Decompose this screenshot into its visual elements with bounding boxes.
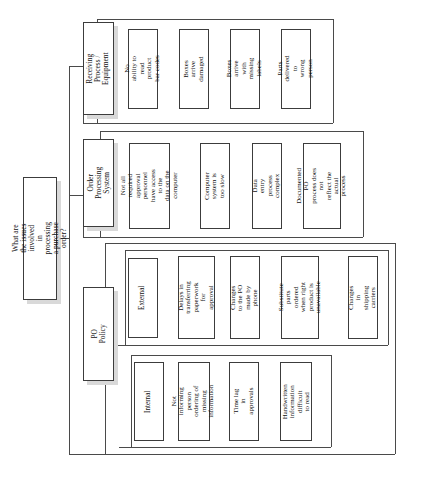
diagram-canvas: What are the issues involved in processi…	[0, 0, 423, 485]
connector-order-branch-top	[100, 131, 363, 132]
connector-external-bottom	[125, 345, 388, 346]
connector-external-v	[125, 250, 126, 345]
leaf-label: Computer system is too slow	[204, 172, 226, 200]
connector-receiving-branch-top	[97, 19, 333, 20]
leaf-computer-system-slow[interactable]: Computer system is too slow	[200, 143, 230, 229]
category-po-policy-label: PO Policy	[91, 320, 107, 349]
leaf-delays-transferring-paperwork[interactable]: Delays in transferring paperwork for app…	[178, 256, 215, 339]
connector-spine-to-receiving	[69, 66, 83, 67]
leaf-label: Data entry process complex	[252, 172, 282, 200]
leaf-label: Not informing person ordering of missing…	[172, 385, 216, 418]
connector-popolicy-outer-top	[105, 243, 395, 244]
leaf-boxes-arrive-damaged[interactable]: Boxes arrive damaged	[179, 29, 209, 109]
category-receiving-label: Receiving Process / Equipment	[87, 52, 111, 84]
connector-external-right	[388, 250, 389, 345]
leaf-no-ability-bar-codes[interactable]: No ability to read product bar codes	[128, 29, 158, 109]
connector-receiving-stub	[83, 123, 97, 124]
connector-popolicy-outer-right	[395, 243, 396, 454]
connector-receiving-branch-bottom	[97, 123, 333, 124]
subgroup-external[interactable]: External	[128, 258, 158, 338]
leaf-label: Changes to the PO made by phone	[230, 284, 260, 312]
connector-internal-bottom	[131, 447, 331, 448]
category-receiving-process-equipment[interactable]: Receiving Process / Equipment	[83, 22, 114, 115]
connector-internal-right	[331, 355, 332, 447]
connector-spine-to-popolicy	[69, 454, 105, 455]
connector-popolicy-outer-bottom	[105, 454, 395, 455]
connector-receiving-branch-right	[333, 19, 334, 123]
connector-internal-stub	[119, 447, 131, 448]
connector-internal-v	[131, 355, 132, 447]
leaf-label: Boxes arrive with missing labels	[226, 55, 263, 83]
leaf-label: Delays in transferring paperwork for app…	[178, 280, 215, 315]
leaf-changes-shipping-carriers[interactable]: Changes in shipping carriers	[348, 256, 378, 339]
connector-spine-to-order	[69, 195, 83, 196]
leaf-handwritten-difficult-to-read[interactable]: Handwritten information difficult to rea…	[280, 362, 312, 441]
leaf-not-informing-person-ordering[interactable]: Not informing person ordering of missing…	[178, 362, 210, 441]
leaf-label: Boxes arrive damaged	[183, 55, 205, 83]
leaf-label: Handwritten information difficult to rea…	[281, 384, 311, 419]
leaf-approval-personnel-access[interactable]: Not all required approval personnel have…	[129, 143, 170, 229]
leaf-parts-wrong-person[interactable]: Parts delivered to wrong person	[281, 29, 311, 109]
root-node[interactable]: What are the issues involved in processi…	[23, 177, 57, 300]
leaf-label: Parts delivered to wrong person	[277, 55, 314, 83]
category-order-label: Order Processing System	[87, 167, 111, 199]
leaf-boxes-missing-labels[interactable]: Boxes arrive with missing labels	[230, 29, 260, 109]
category-po-policy[interactable]: PO Policy	[83, 287, 114, 381]
root-node-label: What are the issues involved in processi…	[12, 222, 68, 254]
connector-order-branch-bottom	[100, 237, 363, 238]
subgroup-external-label: External	[139, 284, 147, 312]
category-order-processing-system[interactable]: Order Processing System	[83, 139, 114, 227]
connector-main-spine	[69, 66, 70, 454]
leaf-label: No ability to read product bar codes	[124, 55, 161, 83]
leaf-label: Documented PO process does not reflect t…	[296, 168, 348, 204]
leaf-substitute-parts-ordered[interactable]: Substitute parts ordered when right prod…	[281, 256, 319, 339]
leaf-time-lag-approvals[interactable]: Time lag in approvals	[229, 362, 259, 441]
subgroup-internal-label: Internal	[145, 388, 153, 416]
leaf-label: Substitute parts ordered when right prod…	[278, 280, 322, 316]
subgroup-internal[interactable]: Internal	[134, 362, 164, 441]
leaf-label: Changes in shipping carriers	[348, 284, 378, 312]
connector-order-stub	[83, 237, 100, 238]
connector-order-branch-right	[363, 131, 364, 237]
connector-external-top	[125, 250, 388, 251]
leaf-data-entry-complex[interactable]: Data entry process complex	[252, 143, 282, 229]
leaf-changes-po-by-phone[interactable]: Changes to the PO made by phone	[230, 256, 260, 339]
connector-internal-top	[131, 355, 331, 356]
leaf-label: Time lag in approvals	[233, 388, 255, 416]
leaf-label: Not all required approval personnel have…	[120, 167, 179, 206]
leaf-documented-po-mismatch[interactable]: Documented PO process does not reflect t…	[303, 143, 341, 229]
